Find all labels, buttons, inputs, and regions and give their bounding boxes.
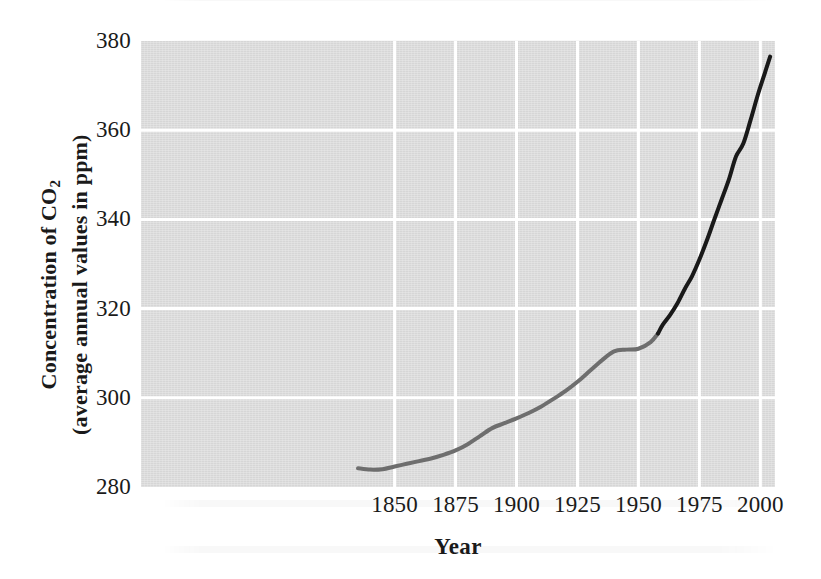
co2-concentration-chart: 280300320340360380 185018751900192519501… xyxy=(0,0,821,579)
data-series-layer xyxy=(141,41,775,487)
x-axis-tick-labels: 1850187519001925195019752000 xyxy=(141,493,775,523)
series-line-2 xyxy=(658,57,770,334)
y-axis-title: Concentration of CO2 (average annual val… xyxy=(36,45,93,525)
series-line-1 xyxy=(358,334,658,470)
y-axis-title-text: Concentration of CO xyxy=(36,188,61,390)
y-axis-title-line1: Concentration of CO2 xyxy=(36,180,61,389)
y-axis-title-line2: (average annual values in ppm) xyxy=(68,45,94,525)
x-axis-title: Year xyxy=(141,534,775,560)
co2-subscript: 2 xyxy=(47,180,63,188)
plot-area xyxy=(141,41,775,487)
x-tick-label: 2000 xyxy=(720,493,800,516)
